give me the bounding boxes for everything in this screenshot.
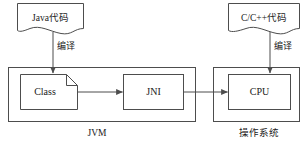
cpp-source-document-shape — [229, 4, 300, 34]
class-file-shape — [21, 75, 78, 110]
jni-box — [124, 75, 184, 110]
diagram-canvas: Java代码 C/C++代码 编译 编译 Class JNI CPU JVM 操… — [0, 0, 307, 145]
diagram-vector-layer — [0, 0, 307, 145]
cpu-box — [229, 75, 291, 110]
java-source-document-shape — [18, 4, 84, 34]
